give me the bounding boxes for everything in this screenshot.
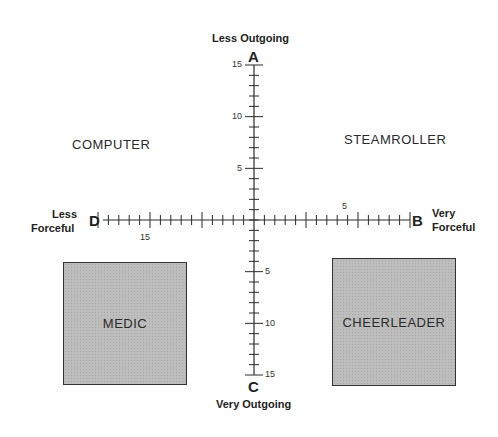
right-axis-title-line1: Very [432, 207, 455, 219]
vertical-tick-label: 10 [265, 318, 275, 328]
bottom-axis-title: Very Outgoing [216, 398, 291, 410]
left-axis-title-line2: Forceful [31, 222, 74, 234]
vertical-tick-label: 5 [237, 163, 242, 173]
horizontal-tick-label: 5 [342, 201, 347, 211]
quadrant-label-cheerleader: CHEERLEADER [342, 315, 445, 330]
right-axis-title-line2: Forceful [432, 221, 475, 233]
vertical-tick-label: 10 [232, 111, 242, 121]
right-axis-letter: B [412, 212, 423, 229]
quadrant-label-computer: COMPUTER [72, 137, 150, 152]
horizontal-tick-label: 15 [140, 232, 150, 242]
top-axis-letter: A [248, 48, 259, 65]
cheerleader-box: CHEERLEADER [332, 258, 456, 386]
quadrant-label-steamroller: STEAMROLLER [344, 132, 446, 147]
left-axis-letter: D [89, 212, 100, 229]
top-axis-title: Less Outgoing [212, 32, 289, 44]
medic-box: MEDIC [63, 262, 187, 385]
vertical-tick-label: 15 [232, 59, 242, 69]
quadrant-label-medic: MEDIC [103, 316, 147, 331]
vertical-tick-label: 15 [265, 369, 275, 379]
left-axis-title-line1: Less [52, 208, 77, 220]
vertical-tick-label: 5 [265, 266, 270, 276]
bottom-axis-letter: C [248, 378, 259, 395]
